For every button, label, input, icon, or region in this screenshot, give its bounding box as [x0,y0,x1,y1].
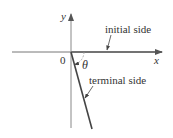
theta-label: θ [82,58,88,72]
initial-side-leader [107,35,111,50]
y-axis-label: y [60,10,66,22]
terminal-side-leader [85,86,93,98]
x-axis-label: x [153,54,159,66]
initial-side-label: initial side [105,23,151,35]
angle-diagram: y 0 x θ initial side terminal side [0,0,173,138]
terminal-side-label: terminal side [89,74,146,86]
origin-label: 0 [60,54,66,66]
